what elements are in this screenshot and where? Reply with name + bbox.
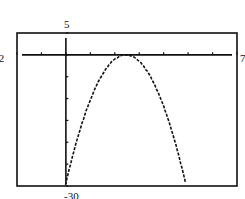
calculator-graph: [0, 0, 245, 199]
plot-frame: [17, 33, 237, 186]
parabola-curve: [66, 55, 186, 185]
